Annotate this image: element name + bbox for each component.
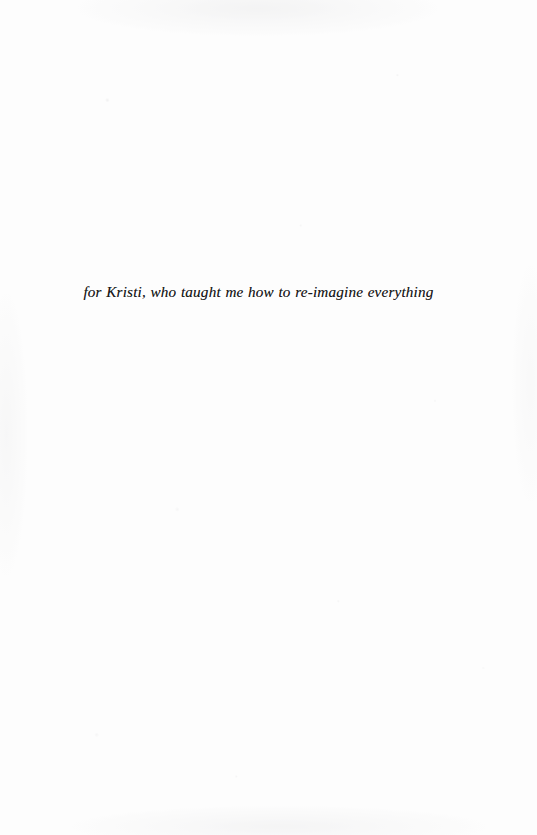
dedication-text: for Kristi, who taught me how to re-imag…	[83, 282, 433, 302]
dedication-page: for Kristi, who taught me how to re-imag…	[0, 0, 537, 835]
paper-scan-grain	[0, 0, 537, 835]
dedication-block: for Kristi, who taught me how to re-imag…	[0, 282, 537, 302]
